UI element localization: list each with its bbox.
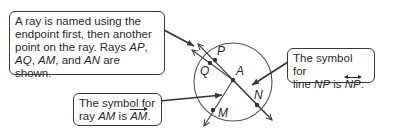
label-q: Q [200,64,209,78]
line-symbol-np: NP [345,78,361,91]
point-n [255,103,259,107]
callout-arrow-2 [252,62,288,85]
callout-ray-naming: A ray is named using the endpoint first,… [9,11,165,75]
callout-ray-symbol: The symbol for ray AM is AM. [73,93,162,126]
label-p: P [217,44,225,58]
point-m [211,108,215,112]
label-n: N [254,88,263,102]
callout-line-symbol: The symbol for line NP is NP. [287,48,375,83]
point-p [213,58,217,62]
label-a: A [236,64,244,78]
ray-symbol-am: AM [130,110,147,123]
callout-arrow-1 [164,30,194,46]
callout-arrow-3 [160,95,222,101]
label-m: M [218,106,228,120]
point-a [231,78,235,82]
